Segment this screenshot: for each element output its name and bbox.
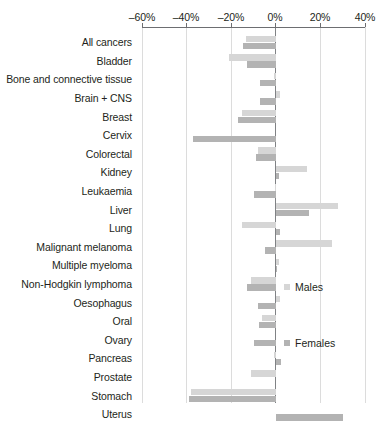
category-label: Malignant melanoma xyxy=(36,241,132,253)
category-label: All cancers xyxy=(82,36,132,48)
category-label: Prostate xyxy=(94,371,132,383)
category-label: Brain + CNS xyxy=(74,92,132,104)
bar-females xyxy=(265,247,276,253)
bar-females xyxy=(276,414,343,420)
category-label: Cervix xyxy=(103,129,132,141)
bar-females xyxy=(256,154,276,160)
bar-males xyxy=(246,36,276,42)
category-label: Bladder xyxy=(97,55,133,67)
bar-females xyxy=(259,322,276,328)
bar-males xyxy=(276,240,332,246)
bar-males xyxy=(258,147,276,153)
category-label: Oesophagus xyxy=(73,297,132,309)
bar-males xyxy=(274,73,276,79)
category-label: Oral xyxy=(113,315,132,327)
chart-row: Oral xyxy=(0,312,383,331)
category-label: Colorectal xyxy=(86,148,132,160)
x-axis-line xyxy=(142,27,365,28)
bar-females xyxy=(258,303,276,309)
xtick-label--20: –20% xyxy=(218,11,244,23)
category-label: Multiple myeloma xyxy=(52,259,132,271)
xtick--60 xyxy=(142,23,143,27)
chart-row: Stomach xyxy=(0,386,383,405)
category-label: Leukaemia xyxy=(82,185,132,197)
bar-males xyxy=(276,296,280,302)
chart-row: Colorectal xyxy=(0,145,383,164)
chart-row: Breast xyxy=(0,107,383,126)
bar-males xyxy=(242,222,275,228)
category-label: Lung xyxy=(109,222,132,234)
chart-row: Liver xyxy=(0,200,383,219)
chart-row: Oesophagus xyxy=(0,293,383,312)
bar-males xyxy=(191,389,276,395)
category-label: Liver xyxy=(110,204,132,216)
bar-females xyxy=(276,266,277,272)
chart-row: Bladder xyxy=(0,52,383,71)
legend-label-males: Males xyxy=(295,281,323,293)
chart-row: Bone and connective tissue xyxy=(0,70,383,89)
legend-swatch-females-icon xyxy=(284,340,290,346)
chart-row: Cervix xyxy=(0,126,383,145)
chart-row: Brain + CNS xyxy=(0,89,383,108)
category-label: Stomach xyxy=(91,390,132,402)
bar-females xyxy=(276,173,279,179)
bar-females xyxy=(247,61,276,67)
category-label: Non-Hodgkin lymphoma xyxy=(21,278,132,290)
chart-row: Malignant melanoma xyxy=(0,238,383,257)
bar-females xyxy=(276,210,309,216)
bar-males xyxy=(242,110,275,116)
chart-row: Lung xyxy=(0,219,383,238)
chart-row: Uterus xyxy=(0,405,383,423)
chart-row: Prostate xyxy=(0,368,383,387)
xtick-label-20: 20% xyxy=(310,11,331,23)
bar-males xyxy=(251,277,276,283)
bar-males xyxy=(251,370,276,376)
bar-males xyxy=(262,315,275,321)
bar-females xyxy=(238,117,276,123)
bar-males xyxy=(275,184,276,190)
bar-males xyxy=(276,259,279,265)
bar-males xyxy=(276,166,307,172)
category-label: Bone and connective tissue xyxy=(6,73,132,85)
xtick-label--40: –40% xyxy=(173,11,199,23)
xtick-label-0: 0% xyxy=(268,11,283,23)
xtick--40 xyxy=(186,23,187,27)
legend-swatch-males-icon xyxy=(284,284,290,290)
bar-females xyxy=(260,80,276,86)
bar-females xyxy=(247,284,276,290)
bar-females xyxy=(193,136,276,142)
category-label: Pancreas xyxy=(88,352,132,364)
category-label: Kidney xyxy=(100,166,132,178)
legend-item-males: Males xyxy=(284,281,323,293)
xtick-40 xyxy=(365,23,366,27)
bar-females xyxy=(254,340,276,346)
chart-row: Leukaemia xyxy=(0,182,383,201)
bar-males xyxy=(274,352,276,358)
xtick-0 xyxy=(275,23,276,27)
chart-row: Kidney xyxy=(0,163,383,182)
category-label: Uterus xyxy=(102,408,132,420)
bar-males xyxy=(229,54,276,60)
legend-item-females: Females xyxy=(284,337,335,349)
chart-rows: All cancersBladderBone and connective ti… xyxy=(0,33,383,423)
bar-females xyxy=(243,43,275,49)
bar-females xyxy=(254,191,276,197)
xtick-20 xyxy=(320,23,321,27)
bar-females xyxy=(189,396,276,402)
chart-row: All cancers xyxy=(0,33,383,52)
bar-females xyxy=(276,359,282,365)
bar-males xyxy=(276,203,338,209)
bar-females xyxy=(276,229,280,235)
category-label: Ovary xyxy=(104,334,132,346)
legend-label-females: Females xyxy=(295,337,335,349)
xtick--20 xyxy=(231,23,232,27)
bar-females xyxy=(260,98,276,104)
xtick-label-40: 40% xyxy=(355,11,376,23)
chart-row: Multiple myeloma xyxy=(0,256,383,275)
chart-row: Non-Hodgkin lymphoma xyxy=(0,275,383,294)
chart-row: Pancreas xyxy=(0,349,383,368)
bar-males xyxy=(276,91,280,97)
xtick-label--60: –60% xyxy=(129,11,155,23)
category-label: Breast xyxy=(102,111,132,123)
